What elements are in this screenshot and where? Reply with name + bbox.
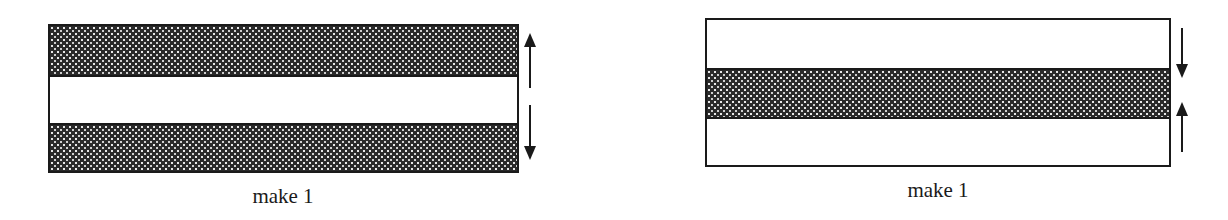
arrow-down-icon [523,105,537,160]
left-bottom-shaded-band [50,123,517,171]
arrow-down-icon [1175,28,1189,78]
arrow-up-icon [1175,102,1189,152]
arrow-up-icon [523,33,537,88]
right-panel-box [705,18,1171,167]
right-middle-shaded-band [707,68,1169,119]
left-panel-caption: make 1 [183,184,383,209]
right-panel-caption: make 1 [838,178,1038,203]
left-panel-box [48,24,519,173]
left-top-shaded-band [50,26,517,77]
